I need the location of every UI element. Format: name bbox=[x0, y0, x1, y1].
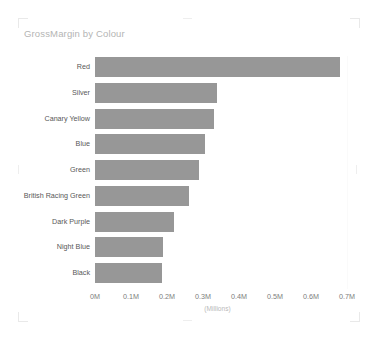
bar[interactable] bbox=[95, 212, 174, 232]
category-label: Blue bbox=[18, 140, 90, 147]
category-label-text: Black bbox=[18, 269, 90, 276]
chart-visual-card[interactable]: GrossMargin by Colour RedSilverCanary Ye… bbox=[0, 0, 375, 340]
value-axis-tick-label: 0.7M bbox=[327, 293, 367, 300]
value-axis-tick-label: 0M bbox=[75, 293, 115, 300]
value-axis-tick-label: 0.4M bbox=[219, 293, 259, 300]
bar[interactable] bbox=[95, 160, 199, 180]
category-label: Dark Purple bbox=[18, 218, 90, 225]
category-label: British Racing Green bbox=[18, 192, 90, 199]
plot-area: RedSilverCanary YellowBlueGreenBritish R… bbox=[0, 0, 375, 340]
value-axis-title: (Millions) bbox=[0, 305, 375, 312]
bar[interactable] bbox=[95, 109, 214, 129]
bar[interactable] bbox=[95, 83, 217, 103]
category-label: Black bbox=[18, 269, 90, 276]
category-label: Green bbox=[18, 166, 90, 173]
category-label-text: Blue bbox=[18, 140, 90, 147]
bar[interactable] bbox=[95, 134, 205, 154]
bar[interactable] bbox=[95, 57, 340, 77]
gridline bbox=[347, 56, 348, 289]
value-axis-tick-label: 0.3M bbox=[183, 293, 223, 300]
category-label: Canary Yellow bbox=[18, 115, 90, 122]
category-label-text: Silver bbox=[18, 89, 90, 96]
value-axis-title-text: (Millions) bbox=[204, 305, 230, 312]
category-label-text: Dark Purple bbox=[18, 218, 90, 225]
value-axis-tick-label: 0.2M bbox=[147, 293, 187, 300]
category-label-text: Red bbox=[18, 63, 90, 70]
category-label: Red bbox=[18, 63, 90, 70]
category-label-text: Green bbox=[18, 166, 90, 173]
bar[interactable] bbox=[95, 237, 163, 257]
value-axis-tick-label: 0.6M bbox=[291, 293, 331, 300]
category-label: Night Blue bbox=[18, 243, 90, 250]
category-label-text: Canary Yellow bbox=[18, 115, 90, 122]
value-axis-tick-label: 0.1M bbox=[111, 293, 151, 300]
bar[interactable] bbox=[95, 186, 189, 206]
category-label-text: British Racing Green bbox=[18, 192, 90, 199]
value-axis-tick-label: 0.5M bbox=[255, 293, 295, 300]
category-label-text: Night Blue bbox=[18, 243, 90, 250]
bar[interactable] bbox=[95, 263, 162, 283]
category-label: Silver bbox=[18, 89, 90, 96]
